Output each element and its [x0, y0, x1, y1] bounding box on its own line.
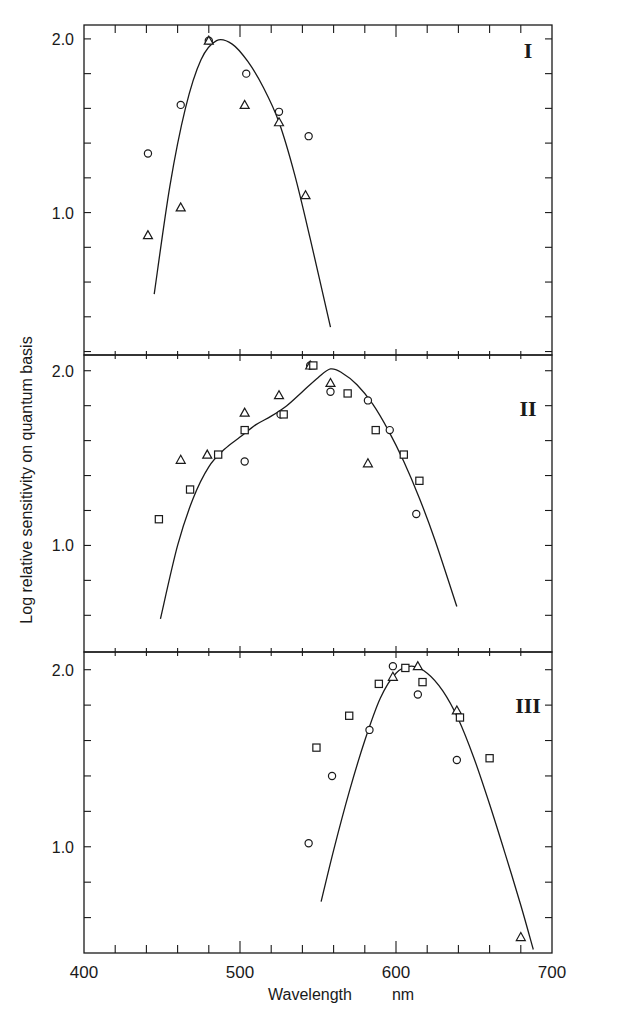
panel-III: 1.02.0III [52, 646, 552, 953]
square-marker [456, 714, 463, 721]
triangle-marker [363, 459, 372, 467]
x-tick-label: 700 [538, 963, 566, 982]
square-marker [310, 362, 317, 369]
circle-marker [386, 427, 393, 434]
circle-marker [453, 756, 460, 763]
circle-marker [275, 108, 282, 115]
circle-marker [327, 388, 334, 395]
y-tick-label: 1.0 [52, 537, 74, 554]
square-marker [486, 755, 493, 762]
triangle-marker [275, 391, 284, 399]
square-marker [344, 390, 351, 397]
panel-frame [84, 652, 552, 953]
panel-frame [84, 355, 552, 652]
x-tick-label: 600 [382, 963, 410, 982]
x-tick-label: 400 [70, 963, 98, 982]
square-marker [241, 427, 248, 434]
circle-marker [243, 70, 250, 77]
triangle-marker [301, 191, 310, 199]
circle-marker [241, 458, 248, 465]
circle-marker [144, 150, 151, 157]
square-marker [402, 664, 409, 671]
y-tick-label: 2.0 [52, 31, 74, 48]
square-marker [215, 451, 222, 458]
y-tick-label: 2.0 [52, 662, 74, 679]
x-tick-labels: 400500600700 [70, 963, 566, 982]
triangle-marker [176, 203, 185, 211]
square-marker [155, 516, 162, 523]
circle-marker [177, 101, 184, 108]
chart-canvas: 1.02.0I1.02.0II1.02.0III 400500600700 Wa… [0, 0, 632, 1024]
circle-marker [328, 772, 335, 779]
panel-label: III [515, 693, 541, 718]
y-tick-label: 1.0 [52, 839, 74, 856]
panel-frame [84, 25, 552, 355]
panels-group: 1.02.0I1.02.0II1.02.0III [52, 25, 552, 953]
spectral-sensitivity-figure: 1.02.0I1.02.0II1.02.0III 400500600700 Wa… [0, 0, 632, 1024]
square-marker [419, 679, 426, 686]
triangle-marker [326, 378, 335, 386]
panel-I: 1.02.0I [52, 25, 552, 355]
fitted-curve [154, 40, 330, 328]
y-tick-label: 1.0 [52, 205, 74, 222]
circle-marker [413, 510, 420, 517]
panel-II: 1.02.0II [52, 349, 552, 652]
square-marker [186, 486, 193, 493]
triangle-marker [240, 100, 249, 108]
x-axis-unit: nm [392, 986, 414, 1003]
square-marker [372, 427, 379, 434]
triangle-marker [176, 455, 185, 463]
panel-label: II [519, 396, 536, 421]
square-marker [280, 411, 287, 418]
x-axis-label: Wavelength [268, 986, 352, 1003]
circle-marker [366, 726, 373, 733]
square-marker [346, 712, 353, 719]
triangle-marker [275, 118, 284, 126]
panel-label: I [524, 38, 533, 63]
triangle-marker [143, 231, 152, 239]
fitted-curve [160, 369, 456, 619]
square-marker [375, 680, 382, 687]
triangle-marker [240, 408, 249, 416]
circle-marker [389, 663, 396, 670]
triangle-marker [516, 933, 525, 941]
fitted-curve [321, 666, 533, 949]
circle-marker [364, 397, 371, 404]
circle-marker [414, 691, 421, 698]
square-marker [313, 744, 320, 751]
square-marker [400, 451, 407, 458]
square-marker [416, 477, 423, 484]
circle-marker [305, 840, 312, 847]
circle-marker [305, 133, 312, 140]
y-tick-label: 2.0 [52, 363, 74, 380]
y-axis-label: Log relative sensitivity on quantum basi… [18, 336, 35, 623]
triangle-marker [413, 662, 422, 670]
x-tick-label: 500 [226, 963, 254, 982]
triangle-marker [203, 450, 212, 458]
